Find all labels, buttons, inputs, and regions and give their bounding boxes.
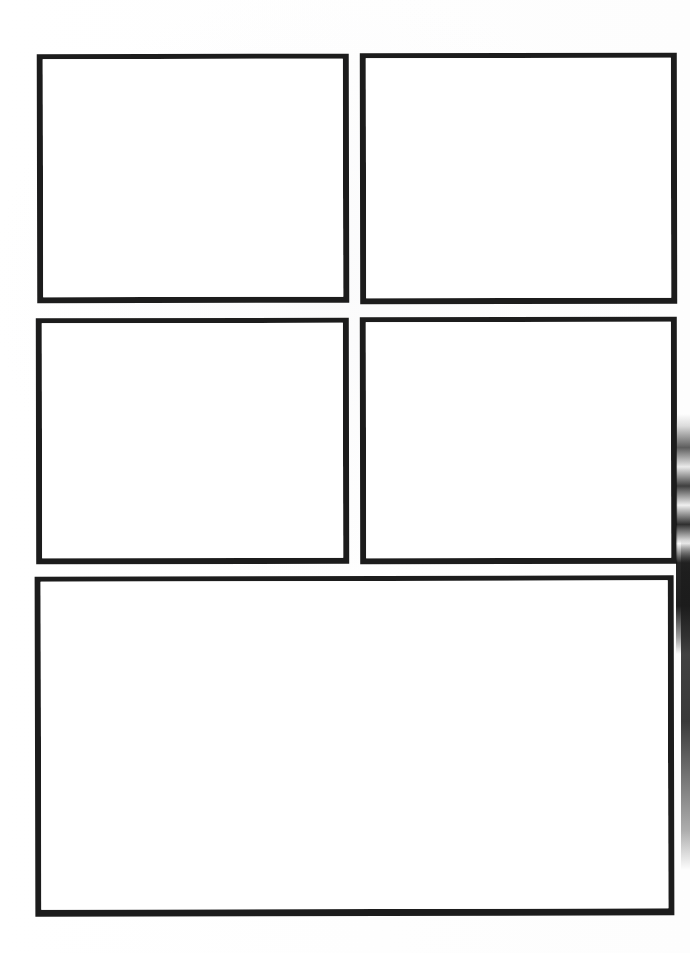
middle-right-panel-content bbox=[366, 322, 671, 559]
top-left-panel[interactable] bbox=[37, 54, 350, 304]
middle-left-panel-content bbox=[42, 323, 343, 559]
top-right-panel[interactable] bbox=[360, 53, 677, 305]
middle-right-panel[interactable] bbox=[360, 317, 677, 565]
top-right-panel-content bbox=[366, 58, 671, 299]
bottom-wide-panel-content bbox=[41, 580, 669, 909]
bottom-wide-panel[interactable] bbox=[35, 575, 675, 916]
top-left-panel-content bbox=[43, 59, 343, 298]
document-page bbox=[0, 0, 690, 953]
scan-edge-shadow bbox=[681, 540, 690, 870]
middle-left-panel[interactable] bbox=[36, 318, 349, 565]
scan-edge-artifact bbox=[676, 414, 690, 654]
